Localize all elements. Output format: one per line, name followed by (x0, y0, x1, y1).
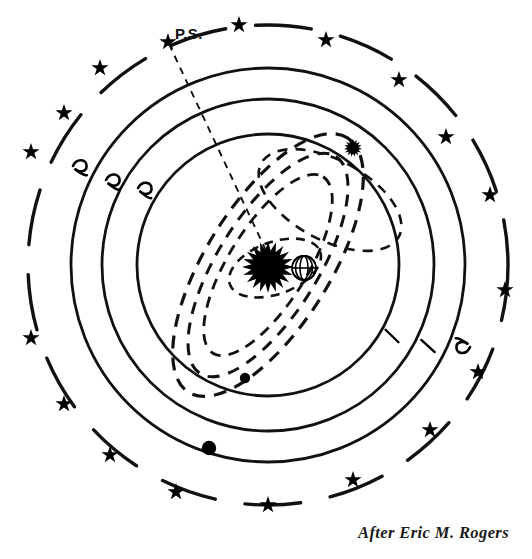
orbit-diagram-figure: P.S. After Eric M. Rogers (0, 0, 532, 559)
celestial-bodies (202, 139, 362, 455)
fixed-star (55, 104, 72, 120)
tick-mark-right-2 (421, 340, 434, 352)
fixed-star (22, 143, 39, 159)
fixed-star (390, 71, 407, 87)
hook-mark-left-1 (71, 158, 90, 176)
fixed-star (91, 59, 108, 75)
pole-star-sight-line (169, 44, 277, 274)
hook-mark-right-1 (452, 338, 471, 355)
tick-mark-right-1 (386, 330, 399, 343)
planet-dot-upper (240, 373, 250, 383)
fixed-star (317, 31, 334, 47)
fixed-star (344, 471, 361, 487)
diagram-canvas (0, 0, 532, 559)
central-sun (242, 241, 295, 294)
fixed-star (101, 446, 118, 462)
hook-mark-left-3 (136, 180, 156, 198)
fixed-star (437, 128, 454, 144)
planet-dot-lower (202, 441, 216, 455)
upper-right-sun (344, 139, 362, 157)
pole-star-label: P.S. (175, 25, 203, 42)
credit-label: After Eric M. Rogers (358, 523, 509, 543)
earth-globe (292, 256, 316, 281)
fixed-star (230, 16, 247, 32)
